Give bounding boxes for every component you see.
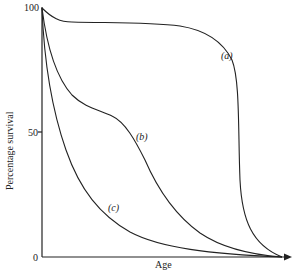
series-label-a: (a) (221, 50, 233, 62)
x-axis-arrow-icon (284, 254, 292, 261)
curve-a (42, 8, 282, 257)
y-axis-label: Percentage survival (4, 111, 15, 190)
y-tick-label-100: 100 (24, 2, 39, 13)
x-axis-label: Age (155, 259, 172, 270)
curve-b (42, 8, 282, 257)
curve-c (42, 8, 282, 257)
survivorship-chart: 100 50 0 Age Percentage survival (a) (b)… (0, 0, 297, 276)
series-label-c: (c) (108, 202, 120, 214)
series-label-b: (b) (136, 131, 148, 143)
y-tick-label-50: 50 (28, 127, 38, 138)
y-tick-label-0: 0 (33, 252, 38, 263)
